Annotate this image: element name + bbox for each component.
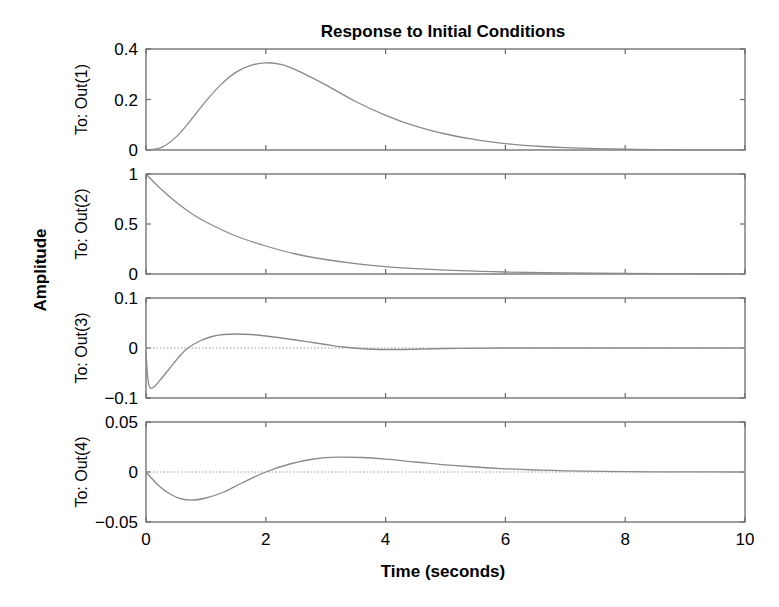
subplots: 00.20.4To: Out(1)00.51To: Out(2)−0.100.1… (73, 40, 745, 532)
subplot-y-label: To: Out(3) (73, 312, 90, 383)
y-tick-label: 0 (129, 463, 138, 482)
x-tick-label: 8 (620, 530, 629, 549)
x-tick-label: 6 (501, 530, 510, 549)
subplot-y-label: To: Out(1) (73, 64, 90, 135)
subplot-out-1: 00.20.4To: Out(1) (73, 40, 745, 160)
plot-frame (146, 49, 745, 150)
subplot-out-3: −0.100.1To: Out(3) (73, 289, 745, 408)
y-tick-label: 1 (129, 165, 138, 184)
chart-title: Response to Initial Conditions (321, 22, 566, 41)
x-tick-label: 2 (261, 530, 270, 549)
x-tick-labels: 0246810 (141, 530, 754, 549)
y-axis-label: Amplitude (31, 228, 50, 311)
y-tick-label: 0 (129, 265, 138, 284)
y-tick-label: 0 (129, 141, 138, 160)
x-tick-label: 10 (736, 530, 755, 549)
subplot-y-label: To: Out(4) (73, 436, 90, 507)
response-chart: Response to Initial Conditions Amplitude… (0, 0, 779, 607)
x-tick-label: 4 (381, 530, 390, 549)
y-tick-label: −0.1 (104, 389, 138, 408)
subplot-out-2: 00.51To: Out(2) (73, 165, 745, 284)
y-tick-label: 0.2 (114, 91, 138, 110)
y-tick-label: −0.05 (95, 513, 138, 532)
y-tick-label: 0.4 (114, 40, 138, 59)
y-tick-label: 0 (129, 339, 138, 358)
y-tick-label: 0.5 (114, 215, 138, 234)
subplot-out-4: −0.0500.05To: Out(4) (73, 413, 745, 532)
subplot-y-label: To: Out(2) (73, 188, 90, 259)
plot-frame (146, 174, 745, 274)
y-tick-label: 0.05 (105, 413, 138, 432)
x-tick-label: 0 (141, 530, 150, 549)
y-tick-label: 0.1 (114, 289, 138, 308)
x-axis-label: Time (seconds) (381, 562, 505, 581)
